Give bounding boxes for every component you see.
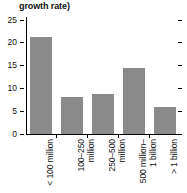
bar-chart: growth rate) 2520151050 < 100 million100… — [0, 0, 187, 193]
y-axis-tick-mark-left — [20, 42, 24, 43]
y-axis-tick-mark-right — [178, 134, 182, 135]
y-axis-tick-mark-left — [20, 134, 24, 135]
x-axis-line — [26, 134, 181, 135]
x-axis-tick-mark — [87, 135, 88, 138]
x-axis-label: > 1 billion — [170, 139, 182, 193]
x-axis-tick-mark — [149, 135, 150, 138]
y-axis-tick-mark-right — [178, 20, 182, 21]
x-axis-tick-mark — [56, 135, 57, 138]
y-axis-tick-mark-right — [178, 42, 182, 43]
x-axis-label: 250–500 million — [108, 139, 120, 193]
x-axis-label: 100–250 million — [77, 139, 89, 193]
y-axis-tick-mark-right — [178, 111, 182, 112]
y-axis-tick-mark-left — [20, 20, 24, 21]
bar — [123, 68, 145, 134]
y-axis-tick-label: 25 — [1, 16, 17, 24]
y-axis-tick-mark-left — [20, 88, 24, 89]
x-axis-label: < 100 million — [46, 139, 58, 193]
bar — [30, 37, 52, 134]
y-axis-tick-label: 20 — [1, 38, 17, 46]
y-axis-line — [26, 17, 27, 135]
x-axis-label: 500 million– 1 billion — [139, 139, 151, 193]
y-axis-tick-mark-left — [20, 65, 24, 66]
y-axis-tick-mark-left — [20, 111, 24, 112]
bar — [61, 97, 83, 134]
y-axis-tick-label: 10 — [1, 84, 17, 92]
y-axis-tick-mark-right — [178, 65, 182, 66]
y-axis-tick-label: 0 — [1, 130, 17, 138]
x-axis-tick-mark — [118, 135, 119, 138]
bar — [92, 94, 114, 134]
y-axis-tick-label: 15 — [1, 61, 17, 69]
plot-area: 2520151050 < 100 million100–250 million2… — [0, 0, 187, 193]
y-axis-tick-mark-right — [178, 88, 182, 89]
bar — [154, 107, 176, 134]
y-axis-tick-label: 5 — [1, 107, 17, 115]
